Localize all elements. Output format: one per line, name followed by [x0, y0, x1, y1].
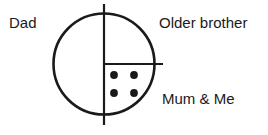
dot-top-left: [110, 71, 118, 79]
dot-bottom-right: [130, 89, 138, 97]
label-dad: Dad: [9, 15, 37, 30]
family-circle-diagram: Dad Older brother Mum & Me: [0, 0, 268, 135]
dot-bottom-left: [110, 89, 118, 97]
label-older-brother: Older brother: [159, 15, 247, 30]
dot-top-right: [130, 71, 138, 79]
label-mum-and-me: Mum & Me: [162, 91, 235, 106]
